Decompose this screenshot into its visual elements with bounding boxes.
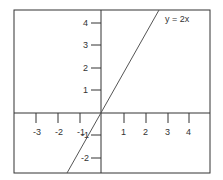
line-y-equals-2x bbox=[67, 10, 159, 173]
y-tick-label: 4 bbox=[83, 18, 88, 28]
x-tick-label: -3 bbox=[33, 127, 41, 137]
x-tick-label: -2 bbox=[55, 127, 63, 137]
y-tick-label: 1 bbox=[83, 85, 88, 95]
x-tick-label: 2 bbox=[143, 127, 148, 137]
y-tick-label: 2 bbox=[83, 63, 88, 73]
plot-frame bbox=[14, 10, 210, 173]
x-ticks bbox=[36, 113, 189, 123]
y-tick-label: 3 bbox=[83, 40, 88, 50]
y-tick-label: -1 bbox=[81, 130, 89, 140]
y-tick-label: -2 bbox=[81, 153, 89, 163]
x-tick-label: 3 bbox=[165, 127, 170, 137]
chart-canvas: -3 -2 -1 1 2 3 4 4 3 2 1 -1 -2 y = 2x bbox=[0, 0, 223, 180]
y-ticks bbox=[91, 23, 101, 158]
x-tick-label: 4 bbox=[186, 127, 191, 137]
x-tick-label: 1 bbox=[121, 127, 126, 137]
equation-label: y = 2x bbox=[165, 14, 190, 24]
